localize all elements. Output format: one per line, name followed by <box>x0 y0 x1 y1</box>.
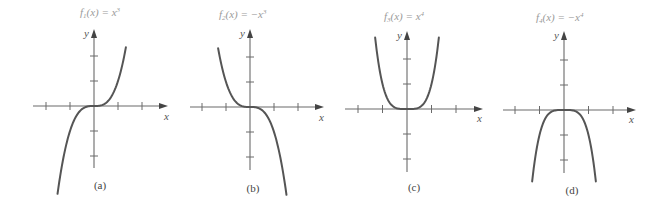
y-axis-label: y <box>239 27 245 39</box>
x-axis-label: x <box>628 113 634 125</box>
function-curve <box>218 48 286 195</box>
panel-b: f2(x) = −x3 x y (b) <box>190 8 324 195</box>
y-axis-arrow-icon <box>91 29 97 38</box>
x-axis-arrow-icon <box>159 103 168 109</box>
axes <box>33 29 168 168</box>
panel-a: f1(x) = x3 x y (a) <box>33 6 169 194</box>
axes <box>345 31 483 172</box>
panel-title: f3(x) = x4 <box>384 10 425 24</box>
x-axis-label: x <box>318 111 324 123</box>
panel-title: f4(x) = −x4 <box>536 11 584 25</box>
y-axis-label: y <box>83 27 89 39</box>
x-axis-label: x <box>476 112 482 124</box>
panel-label: (c) <box>408 181 421 194</box>
x-axis-arrow-icon <box>315 104 324 110</box>
panel-d: f4(x) = −x4 x y (d) <box>503 11 636 197</box>
y-axis-arrow-icon <box>561 31 567 40</box>
figure-canvas: f1(x) = x3 x y (a) f2(x) = −x3 x y (b) f… <box>0 0 667 207</box>
function-curve <box>58 47 126 194</box>
panel-title: f2(x) = −x3 <box>219 8 267 22</box>
panel-label: (a) <box>94 179 107 192</box>
x-axis-label: x <box>163 110 169 122</box>
y-axis-label: y <box>553 29 559 41</box>
panel-label: (d) <box>566 184 579 197</box>
y-axis-label: y <box>396 29 402 41</box>
panel-title: f1(x) = x3 <box>80 6 121 20</box>
panel-c: f3(x) = x4 x y (c) <box>345 10 483 194</box>
panel-label: (b) <box>247 182 260 195</box>
axes <box>190 29 324 170</box>
y-axis-arrow-icon <box>247 29 253 38</box>
axes <box>503 31 636 173</box>
y-axis-arrow-icon <box>404 31 410 40</box>
